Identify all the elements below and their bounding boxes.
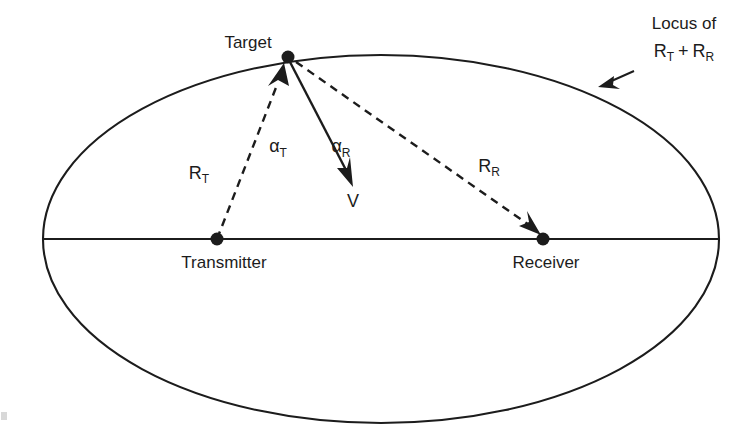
bistatic-radar-diagram: Target Transmitter Receiver Locus of RT+… xyxy=(0,0,752,447)
velocity-vector-arrowhead xyxy=(337,157,353,187)
angle-transmit-sub: T xyxy=(280,146,288,160)
diagram-canvas: Target Transmitter Receiver Locus of RT+… xyxy=(0,0,752,447)
target-node-dot xyxy=(282,51,295,64)
locus-caption-line2: RT+RR xyxy=(654,41,715,64)
receiver-node-dot xyxy=(537,233,550,246)
range-transmit-base: R xyxy=(189,163,202,183)
locus-rr-base: R xyxy=(693,41,706,61)
scan-artifact-speck xyxy=(1,412,7,420)
target-label: Target xyxy=(224,33,272,52)
angle-transmit-label: αT xyxy=(269,136,287,160)
receiver-label: Receiver xyxy=(512,253,579,272)
range-transmit-label: RT xyxy=(189,163,210,186)
range-receive-base: R xyxy=(478,156,491,176)
range-receive-label: RR xyxy=(478,156,500,179)
locus-caption-line1: Locus of xyxy=(652,14,717,33)
locus-rr-sub: R xyxy=(706,50,715,64)
transmitter-node-dot xyxy=(211,233,224,246)
angle-receive-sub: R xyxy=(342,146,351,160)
range-receive-sub: R xyxy=(491,165,500,179)
transmitter-label: Transmitter xyxy=(181,253,267,272)
locus-plus: + xyxy=(678,41,689,61)
locus-rt-base: R xyxy=(654,41,667,61)
range-receive-arrowhead xyxy=(519,211,541,235)
velocity-label: V xyxy=(347,191,359,211)
locus-rt-sub: T xyxy=(667,50,675,64)
angle-receive-base: α xyxy=(331,136,341,156)
range-transmit-arrowhead xyxy=(268,63,289,86)
range-transmit-sub: T xyxy=(202,172,210,186)
angle-receive-label: αR xyxy=(331,136,350,160)
angle-transmit-base: α xyxy=(269,136,279,156)
range-transmit-line xyxy=(217,85,277,239)
